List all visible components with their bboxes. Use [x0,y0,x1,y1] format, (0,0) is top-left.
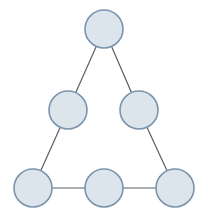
node-circle[interactable] [49,91,87,129]
triangle-node-diagram [0,0,208,222]
diagram-canvas [0,0,208,222]
node-layer [14,10,194,207]
node-circle[interactable] [85,169,123,207]
graph-node[interactable] [85,169,123,207]
node-circle[interactable] [85,10,123,48]
graph-node[interactable] [85,10,123,48]
node-circle[interactable] [120,91,158,129]
graph-node[interactable] [14,169,52,207]
graph-node[interactable] [49,91,87,129]
graph-node[interactable] [156,169,194,207]
node-circle[interactable] [14,169,52,207]
node-circle[interactable] [156,169,194,207]
graph-node[interactable] [120,91,158,129]
